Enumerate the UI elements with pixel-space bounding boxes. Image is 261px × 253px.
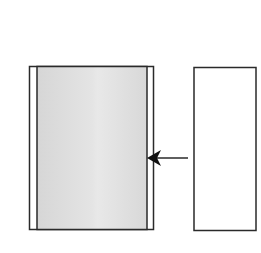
diagram-canvas <box>0 0 261 253</box>
right-block <box>194 68 256 231</box>
left-block <box>30 67 154 230</box>
left-block-shaded-core <box>37 67 147 230</box>
